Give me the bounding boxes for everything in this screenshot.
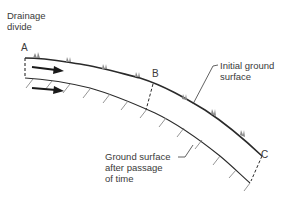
ground-surface-after-time-label: Ground surface after passage of time xyxy=(105,151,170,184)
point-b-label: B xyxy=(152,69,159,79)
grass-tuft-icon xyxy=(135,72,140,77)
initial-ground-leader-line xyxy=(193,65,218,104)
point-c-label: C xyxy=(261,150,268,160)
vegetation-tufts xyxy=(33,52,245,137)
upper-flow-arrow xyxy=(32,66,64,74)
grass-tuft-icon xyxy=(102,64,107,69)
hillslope-erosion-diagram: Drainage divide A B C Initial ground sur… xyxy=(0,0,299,202)
drainage-divide-label: Drainage divide xyxy=(7,10,46,32)
lower-flow-arrow xyxy=(32,86,64,94)
point-a-label: A xyxy=(21,43,28,53)
point-b-dashed-line xyxy=(146,84,153,110)
grass-tuft-icon xyxy=(33,52,40,58)
after-time-leader-line xyxy=(178,145,193,157)
grass-tuft-icon xyxy=(182,94,187,100)
initial-ground-surface-label: Initial ground surface xyxy=(220,60,274,82)
grass-tuft-icon xyxy=(66,57,71,62)
